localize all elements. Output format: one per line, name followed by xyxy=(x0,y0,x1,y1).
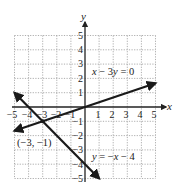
svg-text:4: 4 xyxy=(138,109,143,120)
svg-text:2: 2 xyxy=(78,73,83,84)
svg-text:−2: −2 xyxy=(72,130,83,141)
x-axis-label: x xyxy=(166,100,172,112)
svg-text:5: 5 xyxy=(78,30,83,41)
svg-text:−5: −5 xyxy=(7,109,18,120)
equation-label-2: y = −x − 4 xyxy=(91,151,136,162)
svg-text:−5: −5 xyxy=(72,173,83,184)
svg-text:−1: −1 xyxy=(72,116,83,127)
svg-text:3: 3 xyxy=(124,109,129,120)
svg-text:3: 3 xyxy=(78,58,83,69)
svg-text:5: 5 xyxy=(152,109,157,120)
svg-text:4: 4 xyxy=(78,44,83,55)
coordinate-plane: x y −5 −4 −3 −2 −1 1 2 3 4 5 5 4 3 2 1 −… xyxy=(0,0,176,188)
equation-label-1: x − 3y = 0 xyxy=(91,66,134,77)
svg-text:1: 1 xyxy=(96,109,101,120)
svg-text:2: 2 xyxy=(110,109,115,120)
intersection-label: (−3, −1) xyxy=(17,137,52,149)
svg-text:1: 1 xyxy=(78,87,83,98)
intersection-point xyxy=(41,119,45,123)
y-axis-label: y xyxy=(80,10,86,22)
